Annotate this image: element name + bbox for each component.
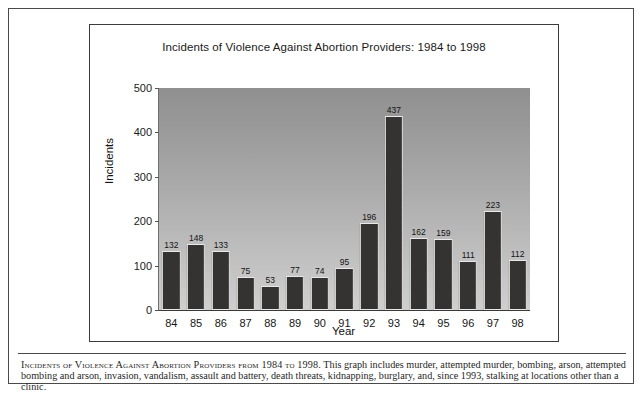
bar-group: 5388: [258, 88, 283, 310]
bar[interactable]: [311, 277, 329, 310]
plot-area: 0100200300400500132841488513386758753887…: [158, 88, 530, 311]
bar-value-label: 132: [164, 240, 178, 250]
y-axis-tick: [155, 310, 159, 311]
caption-lead: Incidents of Violence Against Abortion P…: [21, 359, 321, 370]
bar[interactable]: [434, 239, 452, 310]
bar-value-label: 148: [189, 233, 203, 243]
bar-value-label: 74: [315, 266, 324, 276]
bar[interactable]: [261, 286, 279, 310]
bar-value-label: 95: [340, 257, 349, 267]
y-axis-tick-label: 200: [134, 215, 152, 227]
bar-value-label: 112: [511, 249, 525, 259]
bar-group: 11196: [456, 88, 481, 310]
figure-caption: Incidents of Violence Against Abortion P…: [21, 359, 627, 393]
y-axis-tick-label: 400: [134, 126, 152, 138]
chart-panel: Incidents of Violence Against Abortion P…: [89, 24, 559, 342]
bar-value-label: 75: [241, 266, 250, 276]
y-axis-tick-label: 500: [134, 82, 152, 94]
bar-group: 7490: [307, 88, 332, 310]
caption-divider: [18, 353, 626, 354]
bar-group: 22397: [481, 88, 506, 310]
bar-value-label: 196: [362, 212, 376, 222]
y-axis-tick-label: 0: [146, 304, 152, 316]
bar[interactable]: [162, 251, 180, 310]
bar-value-label: 159: [436, 228, 450, 238]
y-axis-tick-label: 300: [134, 171, 152, 183]
bar-value-label: 111: [462, 250, 475, 260]
bar-group: 9591: [332, 88, 357, 310]
bar-group: 11298: [505, 88, 530, 310]
bar-value-label: 133: [214, 240, 228, 250]
bar-group: 7789: [283, 88, 308, 310]
bar-group: 15995: [431, 88, 456, 310]
x-axis-title: Year: [158, 325, 529, 337]
bar-group: 13386: [208, 88, 233, 310]
bar-group: 19692: [357, 88, 382, 310]
figure-frame: Incidents of Violence Against Abortion P…: [8, 8, 634, 384]
bar-value-label: 223: [486, 200, 500, 210]
bar[interactable]: [187, 244, 205, 310]
bar[interactable]: [335, 268, 353, 310]
bar[interactable]: [508, 260, 526, 310]
bar-value-label: 77: [290, 265, 299, 275]
bar[interactable]: [360, 223, 378, 310]
bar-group: 16294: [406, 88, 431, 310]
y-axis-title: Incidents: [103, 121, 115, 201]
bar-value-label: 53: [266, 275, 275, 285]
bar-value-label: 437: [387, 105, 401, 115]
bar[interactable]: [286, 276, 304, 310]
bar-group: 7587: [233, 88, 258, 310]
bar-value-label: 162: [412, 227, 426, 237]
bar[interactable]: [212, 251, 230, 310]
bar[interactable]: [410, 238, 428, 310]
bar[interactable]: [385, 116, 403, 310]
bar-group: 43793: [382, 88, 407, 310]
bar[interactable]: [236, 277, 254, 310]
chart-title: Incidents of Violence Against Abortion P…: [90, 41, 558, 53]
bar-group: 13284: [159, 88, 184, 310]
bar[interactable]: [459, 261, 477, 310]
bar[interactable]: [484, 211, 502, 310]
bar-group: 14885: [184, 88, 209, 310]
y-axis-tick-label: 100: [134, 260, 152, 272]
